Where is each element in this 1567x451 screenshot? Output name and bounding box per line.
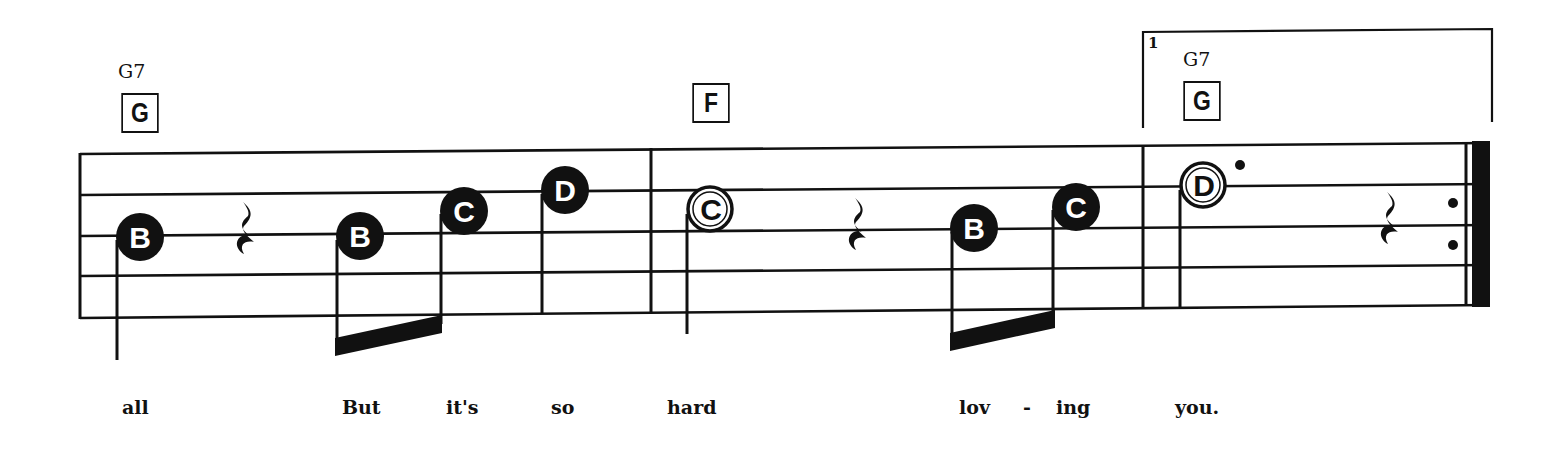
lyric-syllable: so: [551, 396, 574, 418]
eighth-beam: [335, 315, 442, 356]
lyric-syllable: ing: [1056, 396, 1090, 418]
quarter-rest-icon: [1381, 192, 1398, 244]
eighth-beam: [950, 310, 1055, 351]
chord-name-g7: G7: [1183, 48, 1210, 70]
svg-text:B: B: [349, 220, 371, 253]
repeat-dot: [1448, 240, 1458, 250]
svg-text:B: B: [129, 221, 151, 254]
lyric-hyphen: -: [1023, 396, 1031, 418]
chord-box-f: F: [692, 83, 729, 123]
note-B: B: [336, 212, 384, 260]
note-B: B: [950, 204, 998, 252]
note-C-half: C: [688, 187, 732, 231]
first-ending-number: 1: [1148, 34, 1158, 52]
note-C: C: [1052, 183, 1100, 231]
lyric-syllable: all: [122, 396, 149, 418]
note-C: C: [440, 187, 488, 235]
lyric-syllable: hard: [667, 396, 716, 418]
note-D: D: [541, 166, 589, 214]
svg-text:C: C: [700, 193, 722, 226]
quarter-rest-icon: [849, 198, 866, 250]
chord-box-g: G: [1183, 81, 1220, 121]
lyric-syllable: lov: [959, 396, 990, 418]
lyric-syllable: it's: [446, 396, 479, 418]
chord-box-g: G: [121, 93, 158, 133]
repeat-dot: [1448, 198, 1458, 208]
augmentation-dot: [1235, 160, 1245, 170]
note-D-dotted-half: D: [1181, 160, 1245, 207]
lyric-syllable: you.: [1175, 396, 1219, 418]
chord-name-g7: G7: [118, 60, 145, 82]
svg-text:C: C: [453, 195, 475, 228]
svg-text:C: C: [1065, 191, 1087, 224]
svg-text:B: B: [963, 212, 985, 245]
quarter-rest-icon: [237, 202, 254, 254]
lyric-syllable: But: [342, 396, 381, 418]
music-staff-score: B B C D B C C D: [0, 0, 1567, 451]
svg-text:D: D: [554, 174, 576, 207]
staff-lines: [80, 143, 1490, 318]
svg-text:D: D: [1193, 169, 1215, 202]
note-B: B: [116, 213, 164, 261]
